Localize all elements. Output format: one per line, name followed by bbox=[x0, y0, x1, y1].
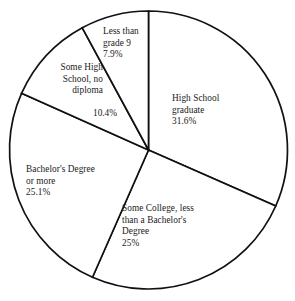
pie-label-some-high-school: Some High School, no diploma bbox=[29, 62, 103, 97]
pie-label-some-college: Some College, less than a Bachelor's Deg… bbox=[122, 203, 218, 249]
pie-label-less-than-grade-9: Less than grade 9 7.9% bbox=[103, 26, 165, 61]
pie-label-bachelors-degree: Bachelor's Degree or more 25.1% bbox=[26, 164, 130, 199]
pie-chart: Less than grade 9 7.9% Some High School,… bbox=[0, 0, 295, 301]
pie-label-high-school-graduate: High School graduate 31.6% bbox=[172, 93, 256, 128]
pie-label-some-high-school-percent: 10.4% bbox=[93, 108, 117, 120]
